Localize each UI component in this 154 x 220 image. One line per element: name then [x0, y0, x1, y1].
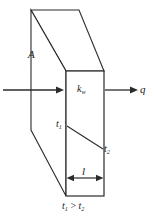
wall-slab-diagram [0, 0, 154, 220]
thermal-conductivity-label: kw [77, 84, 86, 95]
hot-temperature-label: t1 [56, 119, 62, 130]
cold-temperature-label: t2 [104, 144, 110, 155]
thermal-conduction-figure: A kw q t1 t2 l t1 > t2 [0, 0, 154, 220]
thickness-label: l [82, 166, 85, 177]
outlet-heat-flux-arrow [105, 87, 138, 94]
heat-flux-label: q [140, 84, 146, 95]
temperature-condition-caption: t1 > t2 [62, 201, 84, 212]
area-label: A [28, 49, 35, 60]
